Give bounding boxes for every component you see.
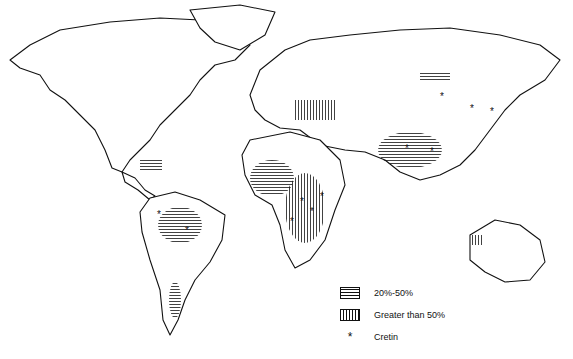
cretin-marker: * bbox=[320, 191, 324, 202]
cretin-marker: * bbox=[440, 91, 444, 102]
region-mexico-20-50 bbox=[140, 158, 162, 170]
world-map: * * * * * * * * * * * bbox=[0, 0, 573, 359]
cretin-marker: * bbox=[300, 196, 304, 207]
vertical-hatch-swatch bbox=[340, 309, 360, 321]
region-west-africa-20-50 bbox=[250, 160, 294, 196]
legend-label: Greater than 50% bbox=[374, 310, 445, 320]
cretin-marker: * bbox=[490, 106, 494, 117]
cretin-marker: * bbox=[310, 206, 314, 217]
region-andes-20-50 bbox=[169, 282, 181, 318]
cretin-marker: * bbox=[405, 143, 409, 154]
australia bbox=[470, 220, 545, 282]
region-siberia-20-50 bbox=[420, 72, 450, 82]
legend-label: Cretin bbox=[374, 332, 398, 342]
cretin-marker: * bbox=[290, 216, 294, 227]
legend-item-20-50: 20%-50% bbox=[340, 286, 413, 300]
legend-item-over-50: Greater than 50% bbox=[340, 308, 445, 322]
cretin-marker: * bbox=[157, 209, 161, 220]
horizontal-hatch-swatch bbox=[340, 287, 360, 299]
region-central-africa-over-50 bbox=[285, 173, 325, 243]
region-new-guinea-over-50 bbox=[470, 235, 482, 245]
cretin-marker: * bbox=[185, 225, 189, 236]
cretin-marker: * bbox=[430, 146, 434, 157]
region-europe-over-50 bbox=[295, 100, 335, 120]
region-south-america-20-50 bbox=[158, 207, 202, 243]
cretin-marker: * bbox=[470, 103, 474, 114]
legend-item-cretin: * Cretin bbox=[340, 330, 398, 344]
asterisk-icon: * bbox=[340, 331, 360, 343]
legend-label: 20%-50% bbox=[374, 288, 413, 298]
central-america bbox=[122, 172, 155, 200]
